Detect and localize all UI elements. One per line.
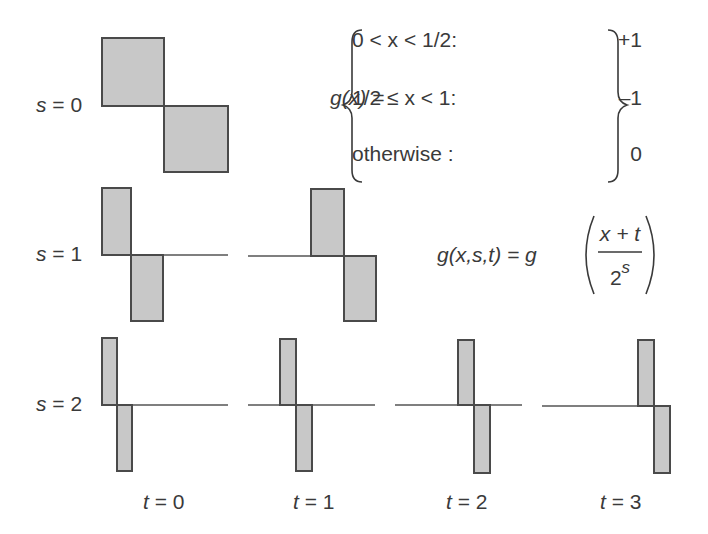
scaled-formula-lhs: g(x,s,t) = g (437, 243, 537, 267)
negative-pulse-s2-t3 (654, 406, 670, 473)
negative-pulse-s0-t0 (164, 106, 228, 172)
case-value-1: +1 (602, 28, 642, 52)
positive-pulse-s1-t1 (311, 189, 344, 256)
negative-pulse-s1-t1 (344, 256, 376, 321)
negative-pulse-s1-t0 (131, 255, 163, 321)
col-label-t2: t = 2 (446, 490, 487, 514)
positive-pulse-s2-t1 (280, 339, 296, 405)
col-label-t0: t = 0 (143, 490, 184, 514)
case-value-2: –1 (602, 86, 642, 110)
positive-pulse-s1-t0 (102, 188, 131, 255)
positive-pulse-s0-t0 (102, 38, 164, 106)
row-label-s0: s = 0 (36, 93, 82, 117)
case-condition-2: 1/2 ≤ x < 1: (352, 86, 456, 110)
case-value-3: 0 (602, 142, 642, 166)
scaled-formula-numerator: x + t (598, 222, 642, 246)
right-paren-icon (646, 216, 654, 294)
negative-pulse-s2-t1 (296, 405, 312, 471)
positive-pulse-s2-t3 (638, 340, 654, 406)
negative-pulse-s2-t2 (474, 405, 490, 473)
negative-pulse-s2-t0 (117, 405, 132, 471)
scaled-formula-denominator: 2s (598, 262, 642, 290)
left-paren-icon (586, 216, 594, 294)
row-label-s2: s = 2 (36, 392, 82, 416)
col-label-t3: t = 3 (600, 490, 641, 514)
positive-pulse-s2-t0 (102, 338, 117, 405)
positive-pulse-s2-t2 (458, 340, 474, 405)
case-condition-1: 0 < x < 1/2: (352, 28, 457, 52)
row-label-s1: s = 1 (36, 242, 82, 266)
col-label-t1: t = 1 (293, 490, 334, 514)
case-condition-3: otherwise : (352, 142, 454, 166)
